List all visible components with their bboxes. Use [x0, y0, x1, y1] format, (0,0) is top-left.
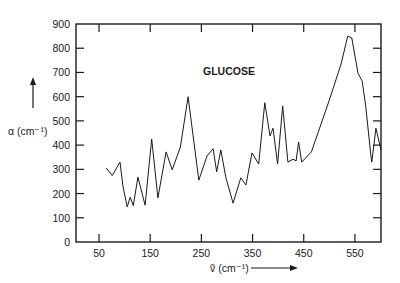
y-axis-label: α (cm⁻¹) [8, 125, 47, 137]
x-axis-label: ṽ (cm⁻¹) [210, 262, 249, 274]
y-tick-label: 400 [52, 139, 70, 151]
x-tick-label: 550 [346, 247, 364, 259]
x-tick-label: 250 [193, 247, 211, 259]
absorption-spectrum-chart: 50150250350450550 0100200300400500600700… [0, 0, 400, 283]
y-tick-label: 500 [52, 115, 70, 127]
chart-title: GLUCOSE [203, 65, 255, 77]
y-axis-arrowhead-icon [30, 77, 36, 85]
x-axis-ticks [99, 24, 355, 242]
y-axis-tick-labels: 0100200300400500600700800900 [52, 18, 70, 248]
x-axis-arrowhead-icon [290, 265, 298, 271]
y-tick-label: 700 [52, 66, 70, 78]
x-tick-label: 150 [141, 247, 159, 259]
y-tick-label: 0 [64, 236, 70, 248]
plot-frame [76, 24, 381, 242]
y-tick-label: 900 [52, 18, 70, 30]
y-tick-label: 200 [52, 188, 70, 200]
y-tick-label: 600 [52, 91, 70, 103]
spectrum-line [106, 36, 381, 207]
x-tick-label: 50 [93, 247, 105, 259]
x-tick-label: 350 [244, 247, 262, 259]
y-tick-label: 100 [52, 212, 70, 224]
x-tick-label: 450 [295, 247, 313, 259]
y-tick-label: 800 [52, 42, 70, 54]
x-axis-tick-labels: 50150250350450550 [93, 247, 364, 259]
y-tick-label: 300 [52, 163, 70, 175]
